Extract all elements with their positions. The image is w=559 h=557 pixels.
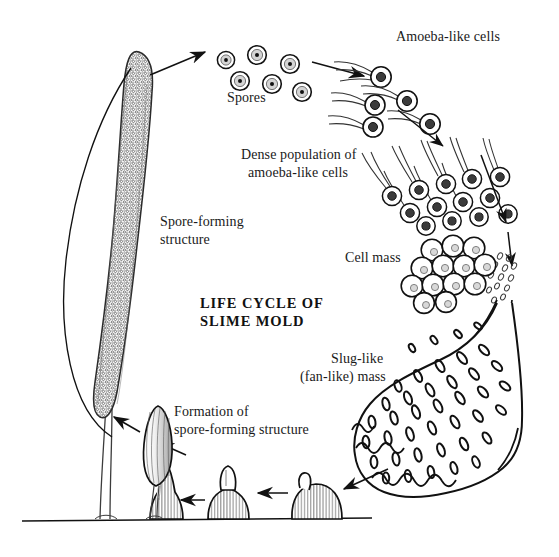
label-formation-line2: spore-forming structure: [174, 422, 309, 439]
cell-mass-group: [401, 235, 496, 313]
label-slug-like-line2: (fan-like) mass: [300, 369, 386, 386]
diagram-title-line2: SLIME MOLD: [200, 312, 304, 330]
arrow-bud-to-mature: [114, 417, 140, 432]
label-amoeba-like-cells: Amoeba-like cells: [396, 29, 500, 46]
amoeba-like-cells-group: [328, 62, 443, 146]
diagram-artwork: [0, 0, 559, 557]
label-cell-mass: Cell mass: [345, 250, 401, 267]
label-formation-line1: Formation of: [174, 404, 249, 421]
label-spores: Spores: [227, 90, 266, 107]
label-spore-forming-line2: structure: [160, 232, 210, 249]
label-spore-forming-line1: Spore-forming: [160, 214, 244, 231]
dense-population-group: [362, 137, 517, 235]
label-slug-like-line1: Slug-like: [331, 351, 383, 368]
life-cycle-diagram: Spores Amoeba-like cells Dense populatio…: [0, 0, 559, 557]
mound-stage-1-shape: [292, 473, 342, 519]
diagram-title-line1: LIFE CYCLE OF: [200, 294, 324, 312]
mound-stage-2-shape: [208, 466, 249, 519]
label-dense-population-line2: amoeba-like cells: [248, 165, 348, 182]
label-dense-population-line1: Dense population of: [241, 147, 356, 164]
slug-like-mass-shape: [352, 300, 522, 497]
arrow-structure-to-spores: [150, 52, 205, 75]
